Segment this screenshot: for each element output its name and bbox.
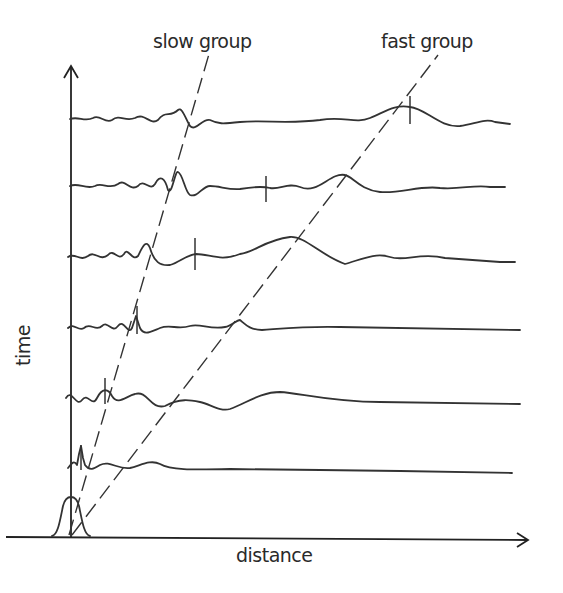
trace-row-5 — [66, 390, 520, 409]
trace-row-1 — [70, 106, 510, 127]
slow-group-line — [69, 54, 209, 535]
group-lines — [69, 54, 438, 535]
diagram-canvas — [0, 0, 563, 593]
slow-group-label: slow group — [153, 30, 252, 52]
fast-group-label: fast group — [381, 30, 473, 52]
trace-row-6 — [68, 446, 512, 473]
distance-axis — [6, 537, 527, 540]
dispersion-diagram: slow group fast group time distance — [0, 0, 563, 593]
x-axis-label: distance — [236, 544, 313, 566]
axes — [6, 66, 528, 547]
trace-row-4 — [68, 316, 520, 333]
trace-row-2 — [70, 172, 505, 196]
y-axis-label: time — [12, 325, 34, 366]
trace-row-3 — [68, 237, 515, 265]
fast-group-line — [72, 55, 438, 535]
